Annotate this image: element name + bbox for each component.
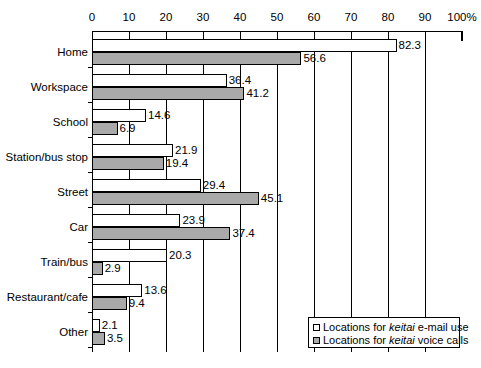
bar-value-label: 41.2 xyxy=(246,87,268,100)
category-separator-tick xyxy=(88,67,92,68)
bar-value-label: 37.4 xyxy=(232,227,254,240)
bar-value-label: 9.4 xyxy=(129,297,145,310)
x-axis-tick-label: 20 xyxy=(160,11,173,23)
chart-legend: Locations for keitai e-mail use Location… xyxy=(308,317,460,348)
x-axis-tick-label: 70 xyxy=(345,11,358,23)
bar-value-label: 2.1 xyxy=(102,319,118,332)
x-axis-tick-label: 60 xyxy=(308,11,321,23)
bar-value-label: 21.9 xyxy=(175,144,197,157)
bar-voice xyxy=(92,87,244,100)
category-separator-tick xyxy=(88,102,92,103)
bar-voice xyxy=(92,227,230,240)
x-axis-tick-label: 0 xyxy=(89,11,95,23)
category-separator-tick xyxy=(88,172,92,173)
bar-email xyxy=(92,319,100,332)
tick-mark xyxy=(166,31,167,38)
bar-value-label: 6.9 xyxy=(120,122,136,135)
bar-email xyxy=(92,144,173,157)
bar-value-label: 23.9 xyxy=(182,214,204,227)
legend-item-voice: Locations for keitai voice calls xyxy=(313,334,459,346)
horizontal-bar-chart: 0102030405060708090100% HomeWorkspaceSch… xyxy=(0,0,481,368)
category-label: Restaurant/cafe xyxy=(7,291,88,303)
legend-label-email: Locations for keitai e-mail use xyxy=(323,321,469,333)
bar-value-label: 19.4 xyxy=(166,157,188,170)
x-axis-tick-label: 80 xyxy=(382,11,395,23)
category-label: Workspace xyxy=(31,81,88,93)
category-label: Car xyxy=(69,221,88,233)
category-separator-tick xyxy=(88,137,92,138)
bar-value-label: 14.6 xyxy=(148,109,170,122)
bar-value-label: 45.1 xyxy=(261,192,283,205)
category-label: Train/bus xyxy=(40,256,88,268)
bar-value-label: 2.9 xyxy=(105,262,121,275)
bar-voice xyxy=(92,122,118,135)
x-axis-tick-label: 40 xyxy=(234,11,247,23)
legend-item-email: Locations for keitai e-mail use xyxy=(313,321,459,333)
tick-mark xyxy=(129,31,130,38)
tick-mark xyxy=(203,31,204,38)
legend-swatch-email-icon xyxy=(313,324,320,331)
category-separator-tick xyxy=(88,242,92,243)
category-separator-tick xyxy=(88,277,92,278)
x-axis-tick-label: 90 xyxy=(419,11,432,23)
bar-email xyxy=(92,179,201,192)
bar-value-label: 29.4 xyxy=(203,179,225,192)
bar-value-label: 82.3 xyxy=(399,39,421,52)
bar-email xyxy=(92,214,180,227)
tick-mark xyxy=(314,31,315,38)
bar-value-label: 3.5 xyxy=(107,332,123,345)
category-label: Other xyxy=(59,326,88,338)
bar-voice xyxy=(92,262,103,275)
bar-value-label: 36.4 xyxy=(229,74,251,87)
x-axis-tick-label: 30 xyxy=(197,11,210,23)
category-label: Home xyxy=(57,46,88,58)
tick-mark xyxy=(425,31,426,38)
tick-mark xyxy=(277,31,278,38)
tick-mark xyxy=(92,31,93,38)
legend-swatch-voice-icon xyxy=(313,337,320,344)
bar-value-label: 20.3 xyxy=(169,249,191,262)
legend-label-voice: Locations for keitai voice calls xyxy=(323,334,469,346)
x-axis-tick-label: 50 xyxy=(271,11,284,23)
category-label: Station/bus stop xyxy=(6,151,88,163)
bar-voice xyxy=(92,52,301,65)
category-separator-tick xyxy=(88,347,92,348)
bar-value-label: 56.6 xyxy=(303,52,325,65)
x-axis-tick-label: 10 xyxy=(123,11,136,23)
bar-value-label: 13.6 xyxy=(144,284,166,297)
category-label: School xyxy=(53,116,88,128)
x-axis-tick-label: 100% xyxy=(447,11,476,23)
bar-email xyxy=(92,284,142,297)
tick-mark xyxy=(240,31,241,38)
tick-mark xyxy=(351,31,352,38)
bar-voice xyxy=(92,192,259,205)
x-axis-tick-marks xyxy=(92,31,462,38)
bar-voice xyxy=(92,297,127,310)
category-separator-tick xyxy=(88,312,92,313)
bar-email xyxy=(92,249,167,262)
category-label: Street xyxy=(57,186,88,198)
tick-mark xyxy=(462,31,463,38)
tick-mark xyxy=(388,31,389,38)
bar-email xyxy=(92,109,146,122)
bar-email xyxy=(92,74,227,87)
category-separator-tick xyxy=(88,207,92,208)
bar-voice xyxy=(92,157,164,170)
bar-email xyxy=(92,39,397,52)
bar-voice xyxy=(92,332,105,345)
